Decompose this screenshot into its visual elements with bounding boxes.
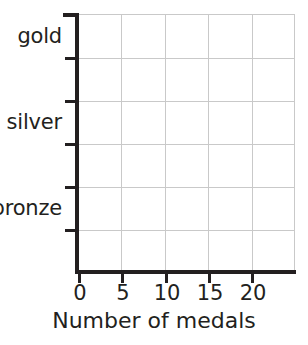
- y-axis-category-label-bronze: bronze: [0, 198, 62, 219]
- x-axis-line: [75, 270, 296, 274]
- y-axis-tick-2: [65, 57, 79, 60]
- x-axis-tick-label-5: 5: [116, 283, 129, 304]
- x-axis-title: Number of medals: [0, 309, 308, 333]
- bar-chart-figure: gold silver bronze 0 5 10 15 20 Number o…: [0, 0, 308, 345]
- y-axis-tick-1: [63, 13, 79, 17]
- y-axis-tick-3: [65, 100, 79, 103]
- x-axis-tick-label-15: 15: [197, 283, 224, 304]
- bars-layer: [78, 14, 295, 272]
- plot-area: [78, 14, 295, 272]
- y-axis-category-label-gold: gold: [17, 26, 62, 47]
- y-axis-tick-6: [65, 229, 79, 232]
- x-axis-tick-label-10: 10: [154, 283, 181, 304]
- y-axis-tick-5: [65, 186, 79, 189]
- x-axis-tick-label-0: 0: [73, 283, 86, 304]
- x-axis-tick-label-20: 20: [240, 283, 267, 304]
- y-axis-tick-4: [65, 143, 79, 146]
- y-axis-category-label-silver: silver: [7, 112, 62, 133]
